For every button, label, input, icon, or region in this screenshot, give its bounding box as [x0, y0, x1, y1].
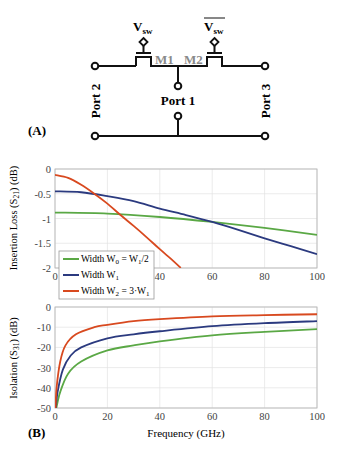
x-tick-label: 100 — [309, 411, 325, 422]
y-axis-label-top: Insertion Loss (S21) (dB) — [8, 165, 21, 270]
x-tick-label: 80 — [259, 411, 270, 422]
m2-label: M2 — [184, 52, 203, 67]
y-tick-label: 0 — [46, 164, 51, 175]
figure: Vsw Vsw M1 M2 Port 1 Port 2 Port 3 (A) 0… — [0, 0, 340, 454]
gate-terminals — [140, 38, 219, 46]
x-tick-label: 40 — [155, 271, 166, 282]
vsw-bar-label: Vsw — [204, 19, 224, 36]
y-tick-label: -1 — [42, 214, 51, 225]
x-tick-label: 0 — [52, 271, 57, 282]
x-tick-label: 0 — [52, 411, 57, 422]
y-tick-label: -20 — [37, 342, 51, 353]
x-axis-label: Frequency (GHz) — [147, 427, 225, 440]
legend: Width W0 = W1/2 Width W1 Width W2 = 3·W1 — [59, 251, 154, 299]
vsw-label: Vsw — [133, 19, 153, 36]
port3-label: Port 3 — [258, 83, 273, 118]
panel-b-label: (B) — [28, 425, 45, 440]
y-tick-label: -30 — [37, 363, 51, 374]
y-tick-label: -40 — [37, 383, 51, 394]
y-tick-label: -2 — [42, 263, 51, 274]
y-tick-label: -0.5 — [34, 189, 51, 200]
y-tick-label: -10 — [37, 322, 51, 333]
y-tick-label: 0 — [46, 302, 51, 313]
port2-label: Port 2 — [88, 84, 103, 118]
isolation-plot: 0204060801000-10-20-30-40-50 — [37, 302, 325, 422]
y-tick-label: -50 — [37, 403, 51, 414]
x-tick-label: 100 — [309, 271, 325, 282]
panel-a-label: (A) — [28, 123, 46, 138]
y-tick-label: -1.5 — [34, 238, 51, 249]
x-tick-label: 20 — [102, 411, 113, 422]
m1-label: M1 — [155, 52, 174, 67]
x-tick-label: 40 — [155, 411, 166, 422]
y-axis-label-bottom: Isolation (S31) (dB) — [8, 317, 21, 399]
x-tick-label: 60 — [207, 271, 218, 282]
port1-label: Port 1 — [161, 93, 195, 108]
circuit-schematic — [97, 46, 262, 136]
x-tick-label: 80 — [259, 271, 270, 282]
x-tick-label: 60 — [207, 411, 218, 422]
